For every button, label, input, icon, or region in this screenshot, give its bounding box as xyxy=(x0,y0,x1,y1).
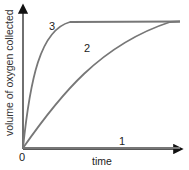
curve-3 xyxy=(23,22,180,149)
chart-canvas xyxy=(0,0,189,170)
origin-label: 0 xyxy=(19,151,25,163)
curve-3-label: 3 xyxy=(49,20,55,32)
x-axis-label: time xyxy=(92,155,112,167)
curve-2 xyxy=(23,22,180,149)
y-axis-label: volume of oxygen collected xyxy=(3,26,15,136)
curve-2-label: 2 xyxy=(84,42,90,54)
curve-1-label: 1 xyxy=(119,135,125,147)
